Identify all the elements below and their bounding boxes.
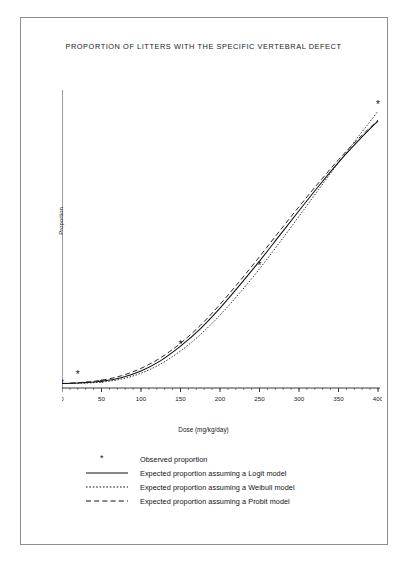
model-curves (62, 111, 378, 383)
legend-label-logit: Expected proportion assuming a Logit mod… (132, 469, 287, 478)
observed-point: * (62, 378, 64, 389)
observed-point: * (100, 378, 104, 389)
svg-text:100: 100 (136, 395, 147, 402)
x-axis-label: Dose (mg/kg/day) (0, 426, 407, 433)
observed-point: * (376, 99, 380, 110)
dashed-line-marker-icon (84, 494, 132, 508)
legend-item-observed: * Observed proportion (84, 452, 364, 466)
svg-text:0: 0 (62, 395, 64, 402)
observed-point: * (76, 369, 80, 380)
dotted-line-marker-icon (84, 480, 132, 494)
svg-text:250: 250 (254, 395, 265, 402)
legend-asterisk-glyph: * (100, 451, 104, 465)
legend-label-probit: Expected proportion assuming a Probit mo… (132, 497, 290, 506)
observed-point: * (258, 260, 262, 271)
svg-text:400: 400 (373, 395, 382, 402)
svg-text:300: 300 (294, 395, 305, 402)
chart-legend: * Observed proportion Expected proportio… (84, 452, 364, 508)
legend-item-weibull: Expected proportion assuming a Weibull m… (84, 480, 364, 494)
legend-label-weibull: Expected proportion assuming a Weibull m… (132, 483, 295, 492)
chart-canvas: 0.00.10.20.30.40.50.60.70.8 050100150200… (62, 88, 382, 405)
solid-line-marker-icon (84, 466, 132, 480)
legend-item-logit: Expected proportion assuming a Logit mod… (84, 466, 364, 480)
legend-item-probit: Expected proportion assuming a Probit mo… (84, 494, 364, 508)
svg-text:50: 50 (98, 395, 105, 402)
svg-text:150: 150 (175, 395, 186, 402)
page-title: PROPORTION OF LITTERS WITH THE SPECIFIC … (0, 42, 407, 51)
asterisk-marker-icon: * (84, 452, 132, 466)
plot-area: 0.00.10.20.30.40.50.60.70.8 050100150200… (62, 88, 382, 405)
legend-label-observed: Observed proportion (132, 455, 207, 464)
x-axis: 050100150200250300350400 (62, 388, 382, 402)
svg-text:200: 200 (215, 395, 226, 402)
svg-text:350: 350 (333, 395, 344, 402)
observed-points: ****** (62, 99, 380, 389)
observed-point: * (179, 339, 183, 350)
